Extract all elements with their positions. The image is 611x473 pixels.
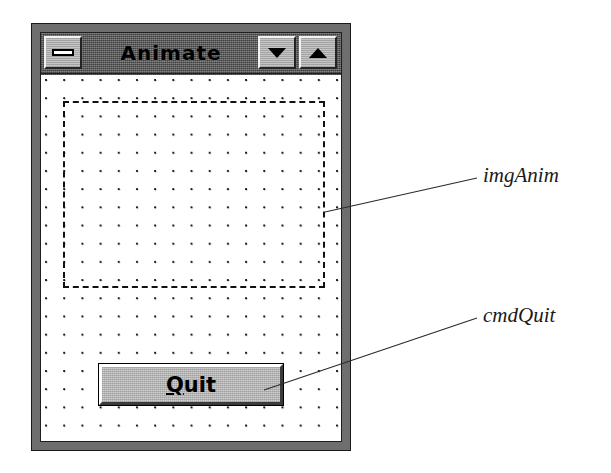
callout-label-cmdQuit: cmdQuit [483,303,555,328]
form-designer-window[interactable]: Animate Quit [31,23,351,451]
callout-label-imgAnim: imgAnim [483,163,559,188]
minimize-icon [52,49,74,56]
cmdQuit-caption-after: uit [184,373,216,397]
restore-button[interactable] [258,36,296,69]
triangle-down-icon [268,48,286,58]
triangle-up-icon [309,48,327,58]
screenshot-stage: Animate Quit imgAnim cmdQuit [0,0,611,473]
minimize-button[interactable] [44,36,82,69]
window-title: Animate [84,33,258,73]
form-design-surface[interactable]: Quit [41,75,341,441]
command-button-cmdQuit[interactable]: Quit [99,364,283,405]
cmdQuit-accelerator: Q [166,373,184,397]
title-bar[interactable]: Animate [41,33,341,74]
image-control-imgAnim[interactable] [63,101,325,288]
maximize-button[interactable] [299,36,337,69]
